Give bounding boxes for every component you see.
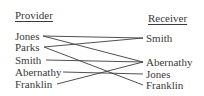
connection-lines: [0, 0, 204, 96]
link-line: [43, 36, 143, 38]
link-line: [44, 38, 143, 47]
link-line: [43, 36, 143, 62]
link-line: [46, 60, 143, 62]
link-line: [57, 62, 143, 84]
